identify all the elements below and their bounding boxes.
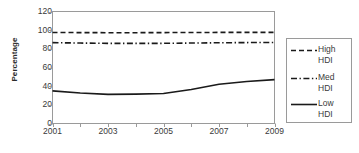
legend-label-high-line2: HDI (318, 55, 333, 66)
legend-label-low-line1: Low (318, 98, 334, 109)
plot-border (53, 12, 275, 124)
x-tick-label: 2001 (33, 126, 73, 136)
chart-legend: High HDI Med HDI Low HDI (286, 38, 352, 123)
legend-label-med-line1: Med (318, 72, 335, 83)
legend-label-low-line2: HDI (318, 109, 333, 120)
legend-entry-low[interactable]: Low HDI (287, 98, 353, 124)
x-tick-label: 2003 (88, 126, 128, 136)
legend-label-med-line2: HDI (318, 83, 333, 94)
legend-entry-high[interactable]: High HDI (287, 44, 353, 70)
y-axis-ticks (49, 13, 53, 125)
legend-swatch-med (291, 77, 317, 80)
legend-swatch-high (291, 49, 317, 52)
x-tick-label: 2007 (199, 126, 239, 136)
x-tick-label: 2005 (144, 126, 184, 136)
chart-figure: Percentage 020406080100120 2001200320052… (0, 0, 359, 153)
legend-swatch-low (291, 103, 317, 106)
x-tick-label: 2009 (255, 126, 295, 136)
legend-entry-med[interactable]: Med HDI (287, 72, 353, 98)
x-axis-tick-labels: 20012003200520072009 (0, 126, 359, 140)
legend-label-high-line1: High (318, 44, 335, 55)
